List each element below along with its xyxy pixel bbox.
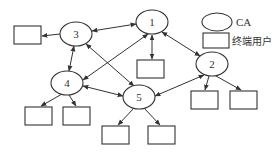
ca-node-4: 4 xyxy=(51,71,83,95)
edge-4-user-a xyxy=(41,94,62,106)
node-label: 4 xyxy=(64,77,70,89)
ca-trust-diagram: 1 2 3 4 5 CA 终端用户 xyxy=(0,0,279,159)
ca-node-2: 2 xyxy=(196,52,228,76)
end-user-box xyxy=(137,60,164,78)
end-user-box xyxy=(25,107,52,125)
ca-node-5: 5 xyxy=(123,85,155,109)
legend-ca-label: CA xyxy=(236,16,251,28)
ca-node-1: 1 xyxy=(136,10,168,34)
node-label: 2 xyxy=(209,58,215,70)
edge-4-user-b xyxy=(69,95,76,106)
legend-end-user-box xyxy=(203,33,229,48)
edge-1-3 xyxy=(92,24,136,31)
node-label: 1 xyxy=(149,16,155,28)
edge-3-4 xyxy=(69,46,74,71)
edge-4-5 xyxy=(83,86,123,96)
legend-ca-ellipse xyxy=(202,13,232,31)
legend: CA 终端用户 xyxy=(202,13,272,48)
edge-5-user-a xyxy=(118,108,134,125)
end-user-box xyxy=(14,26,41,44)
edge-5-user-b xyxy=(144,108,160,125)
legend-end-user-label: 终端用户 xyxy=(232,35,272,47)
end-user-box xyxy=(230,91,257,109)
edge-2-user-b xyxy=(216,76,241,90)
node-label: 5 xyxy=(136,91,142,103)
node-label: 3 xyxy=(73,28,79,40)
end-user-box xyxy=(102,126,129,144)
end-user-box xyxy=(191,91,218,109)
edge-3-5 xyxy=(86,44,134,86)
edge-2-user-a xyxy=(205,76,209,90)
end-user-box xyxy=(63,107,90,125)
end-user-box xyxy=(148,126,175,144)
edge-3-user xyxy=(42,34,60,36)
edge-1-2 xyxy=(162,32,200,56)
ca-node-3: 3 xyxy=(60,22,92,46)
